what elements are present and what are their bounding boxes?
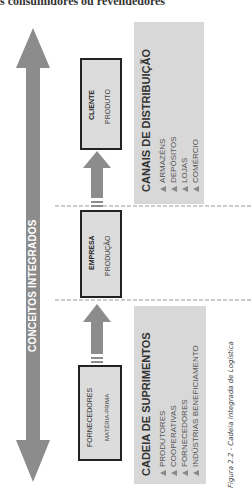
distribution-item: ARMAZÉNS [158,139,167,192]
cliente-title: CLIENTE [88,90,95,120]
empresa-title: EMPRESA [88,235,95,270]
supply-item: PRODUTORES [158,411,167,476]
distribution-item: LOJAS [180,158,189,192]
flow-arrow-icon [83,304,111,354]
distribution-title: CANAIS DE DISTRIBUIÇÃO [140,49,152,192]
cliente-subtitle: PRODUTO [104,89,111,124]
empresa-subtitle: PRODUÇÃO [104,236,111,276]
figure-caption: Figura 2.2 - Cadeia Integrada de Logísti… [227,341,235,488]
supply-item: COOPERATIVAS [169,405,178,476]
distribution-panel: CANAIS DE DISTRIBUIÇÃO ARMAZÉNS DEPÓSITO… [134,22,204,204]
triangle-bullet-icon [182,470,188,476]
flow-arrow-icon [83,151,111,198]
cliente-box: CLIENTE PRODUTO [80,58,122,150]
main-arrow-label: CONCEITOS INTEGRADOS [27,219,38,352]
fornecedores-subtitle: MATÉRIA-PRIMA [104,394,110,441]
triangle-bullet-icon [160,470,166,476]
supply-item: FORNECEDORES [180,399,189,476]
triangle-bullet-icon [193,470,199,476]
fornecedores-box: FORNECEDORES MATÉRIA-PRIMA [78,365,122,461]
empresa-box: EMPRESA PRODUÇÃO [80,210,122,298]
triangle-bullet-icon [171,186,177,192]
triangle-bullet-icon [160,186,166,192]
distribution-item: COMÉRCIO [191,139,200,192]
triangle-bullet-icon [171,470,177,476]
triangle-bullet-icon [182,186,188,192]
supply-item: INDÚSTRIAS BENEFICIAMENTO [191,345,200,476]
supply-title: CADEIA DE SUPRIMENTOS [140,332,152,476]
fornecedores-title: FORNECEDORES [86,388,93,447]
supply-panel: CADEIA DE SUPRIMENTOS PRODUTORES COOPERA… [134,306,206,484]
triangle-bullet-icon [193,186,199,192]
distribution-item: DEPÓSITOS [169,136,178,192]
